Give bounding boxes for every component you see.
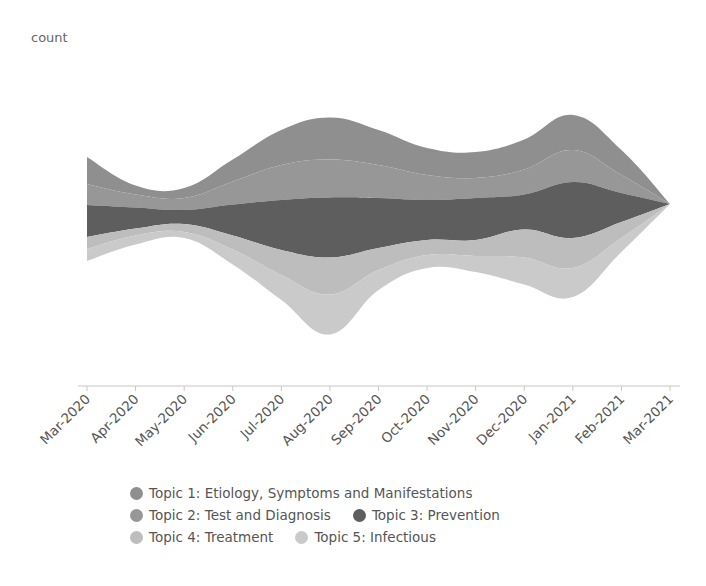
legend-marker-icon xyxy=(353,509,366,522)
legend-label: Topic 3: Prevention xyxy=(372,507,500,523)
streamgraph-chart: count Mar-2020Apr-2020May-2020Jun-2020Ju… xyxy=(0,0,706,586)
x-tick-label: Feb-2021 xyxy=(572,391,628,447)
x-tick-label: Aug-2020 xyxy=(278,391,336,449)
x-tick-label: Jan-2021 xyxy=(524,391,578,445)
legend-item-topic-3[interactable]: Topic 3: Prevention xyxy=(353,507,500,523)
legend-item-topic-2[interactable]: Topic 2: Test and Diagnosis xyxy=(130,507,331,523)
stream-layers xyxy=(87,115,670,335)
legend-marker-icon xyxy=(130,487,143,500)
legend-marker-icon xyxy=(130,531,143,544)
legend-label: Topic 1: Etiology, Symptoms and Manifest… xyxy=(149,485,472,501)
legend-row: Topic 1: Etiology, Symptoms and Manifest… xyxy=(130,485,472,501)
legend-item-topic-5[interactable]: Topic 5: Infectious xyxy=(295,529,436,545)
legend-row: Topic 4: TreatmentTopic 5: Infectious xyxy=(130,529,436,545)
legend-item-topic-1[interactable]: Topic 1: Etiology, Symptoms and Manifest… xyxy=(130,485,472,501)
legend-marker-icon xyxy=(295,531,308,544)
legend-label: Topic 2: Test and Diagnosis xyxy=(149,507,331,523)
x-tick-label: Mar-2020 xyxy=(37,391,93,447)
plot-area: Mar-2020Apr-2020May-2020Jun-2020Jul-2020… xyxy=(0,0,706,480)
legend-label: Topic 5: Infectious xyxy=(314,529,436,545)
x-axis: Mar-2020Apr-2020May-2020Jun-2020Jul-2020… xyxy=(37,386,680,449)
x-tick-label: Mar-2021 xyxy=(620,391,676,447)
x-tick-label: Jun-2020 xyxy=(184,391,239,446)
legend-marker-icon xyxy=(130,509,143,522)
legend-label: Topic 4: Treatment xyxy=(149,529,273,545)
x-tick-label: Nov-2020 xyxy=(424,391,481,448)
x-tick-label: Dec-2020 xyxy=(473,391,531,449)
legend-row: Topic 2: Test and DiagnosisTopic 3: Prev… xyxy=(130,507,500,523)
legend-item-topic-4[interactable]: Topic 4: Treatment xyxy=(130,529,273,545)
x-tick-label: Sep-2020 xyxy=(328,391,385,448)
x-tick-label: May-2020 xyxy=(132,391,191,450)
